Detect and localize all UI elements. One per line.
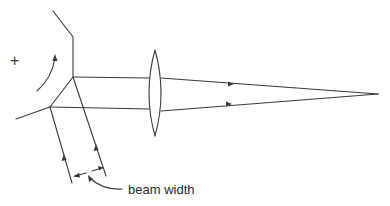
incident-beams xyxy=(50,77,106,183)
optical-scanner-diagram: + beam width xyxy=(0,0,390,206)
beam-arrowhead-icon xyxy=(62,154,67,161)
mirror xyxy=(16,11,73,119)
beam-width-label: beam width xyxy=(128,182,194,197)
beam-width-dimension xyxy=(73,166,122,189)
beam-arrowhead-icon xyxy=(94,144,99,151)
lens-icon xyxy=(149,50,161,136)
focused-beams xyxy=(161,78,378,111)
rotation-sign-label: + xyxy=(10,52,19,69)
reflected-beams xyxy=(50,77,149,109)
rotation-arrow-icon xyxy=(37,54,58,91)
beam-arrowhead-icon xyxy=(228,82,234,87)
